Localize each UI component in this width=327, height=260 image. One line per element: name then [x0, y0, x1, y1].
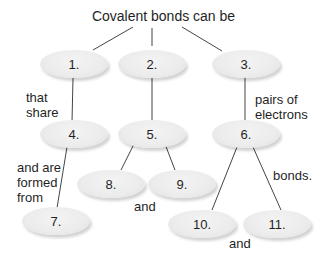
link-and-are-formed-from: and are formed from	[17, 160, 77, 205]
node-5: 5.	[118, 120, 186, 148]
node-10: 10.	[168, 210, 236, 238]
link-and-10-11: and	[229, 236, 251, 251]
node-8: 8.	[77, 170, 145, 198]
link-bonds: bonds.	[273, 168, 312, 183]
node-11: 11.	[243, 210, 311, 238]
diagram-title: Covalent bonds can be	[0, 8, 327, 24]
node-2: 2.	[118, 50, 186, 78]
node-9: 9.	[148, 170, 216, 198]
node-6: 6.	[212, 120, 280, 148]
link-pairs-of-electrons: pairs of electrons	[255, 92, 325, 122]
node-3: 3.	[212, 50, 280, 78]
node-7: 7.	[22, 207, 90, 235]
node-4: 4.	[40, 120, 108, 148]
link-and-8-9: and	[134, 199, 156, 214]
link-that-share: that share	[26, 90, 70, 120]
node-1: 1.	[40, 50, 108, 78]
